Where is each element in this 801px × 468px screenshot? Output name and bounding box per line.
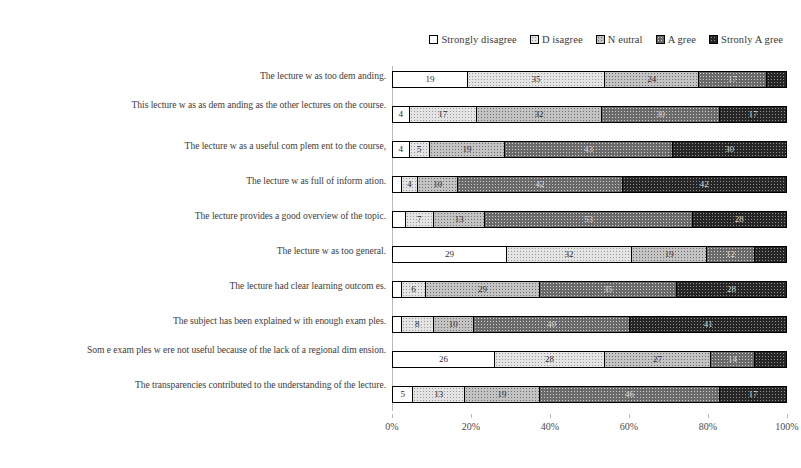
- axis-tick: [629, 414, 630, 418]
- bar-segment: 17: [720, 387, 786, 402]
- bar-segment-value: 40: [547, 320, 556, 329]
- stacked-bar: 417323017: [392, 106, 787, 123]
- bar-segment-value: 28: [545, 355, 554, 364]
- bar-segment: 6: [402, 282, 426, 297]
- bar-segment-value: 13: [434, 390, 443, 399]
- legend-item-agree: A gree: [656, 34, 696, 45]
- legend-label-agree: A gree: [668, 34, 696, 45]
- legend-swatch-strongly-disagree-icon: [429, 35, 438, 44]
- bar-segment: 30: [602, 107, 720, 122]
- bar-segment: 4: [393, 107, 410, 122]
- bar-segment-value: 17: [748, 390, 757, 399]
- stacked-bar: 513194617: [392, 386, 787, 403]
- stacked-bar: 19352417: [392, 71, 787, 88]
- bar-segment-value: 35: [531, 75, 540, 84]
- bar-segment-value: 42: [700, 180, 709, 189]
- bar-segment: 28: [677, 282, 786, 297]
- bar-segment-value: 53: [584, 215, 593, 224]
- legend-item-strongly-disagree: Strongly disagree: [429, 34, 516, 45]
- chart-row: The transparencies contributed to the un…: [0, 377, 801, 412]
- bar-segment: 19: [465, 387, 540, 402]
- category-label: The lecture w as full of inform ation.: [8, 175, 386, 187]
- bar-segment-value: 10: [433, 180, 442, 189]
- legend-label-strongly-disagree: Strongly disagree: [441, 34, 516, 45]
- bar-segment-value: 28: [735, 215, 744, 224]
- stacked-bar: 7135328: [392, 211, 787, 228]
- category-label: The lecture provides a good overview of …: [8, 210, 386, 222]
- bar-segment: 10: [418, 177, 458, 192]
- bar-segment-value: 24: [647, 75, 656, 84]
- axis-tick-label: 20%: [462, 421, 480, 432]
- legend-item-neutral: N eutral: [596, 34, 643, 45]
- chart-plot-area: The lecture w as too dem anding.19352417…: [0, 62, 801, 414]
- category-label: Som e exam ples w ere not useful because…: [8, 344, 386, 356]
- stacked-bar: 4104242: [392, 176, 787, 193]
- legend-item-disagree: D isagree: [530, 34, 583, 45]
- bar-segment: 10: [434, 317, 474, 332]
- category-label: The lecture had clear learning outcom es…: [8, 280, 386, 292]
- bar-segment: 29: [426, 282, 540, 297]
- bar-segment: 29: [393, 247, 507, 262]
- bar-segment: 8: [402, 317, 434, 332]
- axis-tick: [392, 414, 393, 418]
- legend-swatch-agree-icon: [656, 35, 665, 44]
- legend-swatch-neutral-icon: [596, 35, 605, 44]
- stacked-bar: 6293528: [392, 281, 787, 298]
- chart-row: The lecture w as a useful com plem ent t…: [0, 132, 801, 167]
- bar-segment: 32: [507, 247, 632, 262]
- legend-label-strongly-agree: Stronly A gree: [721, 34, 783, 45]
- category-label: The lecture w as a useful com plem ent t…: [8, 140, 386, 152]
- bar-segment: 43: [505, 142, 673, 157]
- chart-row: The lecture had clear learning outcom es…: [0, 272, 801, 307]
- legend-label-disagree: D isagree: [542, 34, 583, 45]
- axis-tick-label: 60%: [620, 421, 638, 432]
- bar-segment-value: 8: [415, 320, 420, 329]
- bar-segment: 17: [699, 72, 766, 87]
- bar-segment: 19: [393, 72, 468, 87]
- axis-tick: [471, 414, 472, 418]
- bar-segment-value: 13: [455, 215, 464, 224]
- bar-segment-value: 5: [400, 390, 405, 399]
- bar-segment-value: 19: [497, 390, 506, 399]
- bar-segment-value: 19: [425, 75, 434, 84]
- bar-segment: 12: [707, 247, 755, 262]
- category-label: The transparencies contributed to the un…: [8, 379, 386, 391]
- bar-segment: 46: [540, 387, 720, 402]
- bar-segment: 4: [393, 142, 410, 157]
- bar-segment: 24: [605, 72, 699, 87]
- axis-tick: [708, 414, 709, 418]
- bar-segment: 27: [605, 352, 711, 367]
- bar-segment: 13: [434, 212, 486, 227]
- bar-segment-value: 19: [462, 145, 471, 154]
- chart-row: Som e exam ples w ere not useful because…: [0, 342, 801, 377]
- category-label: This lecture w as as dem anding as the o…: [8, 99, 386, 111]
- legend-item-strongly-agree: Stronly A gree: [709, 34, 783, 45]
- bar-segment: 7: [406, 212, 434, 227]
- bar-segment: 13: [413, 387, 465, 402]
- axis-tick-label: 0%: [385, 421, 398, 432]
- bar-segment: 35: [468, 72, 605, 87]
- bar-segment-value: 4: [407, 180, 412, 189]
- axis-tick: [550, 414, 551, 418]
- axis-tick: [787, 414, 788, 418]
- bar-segment-value: 46: [625, 390, 634, 399]
- bar-segment-value: 32: [565, 250, 574, 259]
- bar-segment-value: 29: [445, 250, 454, 259]
- bar-segment: [755, 352, 786, 367]
- bar-segment: 42: [623, 177, 786, 192]
- bar-segment-value: 19: [665, 250, 674, 259]
- bar-segment: 17: [410, 107, 477, 122]
- legend-swatch-disagree-icon: [530, 35, 539, 44]
- bar-segment-value: 4: [399, 145, 404, 154]
- bar-segment-value: 17: [748, 110, 757, 119]
- bar-segment-value: 30: [656, 110, 665, 119]
- bar-segment: [393, 282, 402, 297]
- chart-row: The lecture w as too general.29321912: [0, 237, 801, 272]
- bar-segment: [393, 317, 402, 332]
- legend-label-neutral: N eutral: [608, 34, 643, 45]
- stacked-bar: 45194330: [392, 141, 787, 158]
- axis-tick-label: 40%: [541, 421, 559, 432]
- bar-segment: [755, 247, 786, 262]
- category-label: The lecture w as too dem anding.: [8, 70, 386, 82]
- legend-swatch-strongly-agree-icon: [709, 35, 718, 44]
